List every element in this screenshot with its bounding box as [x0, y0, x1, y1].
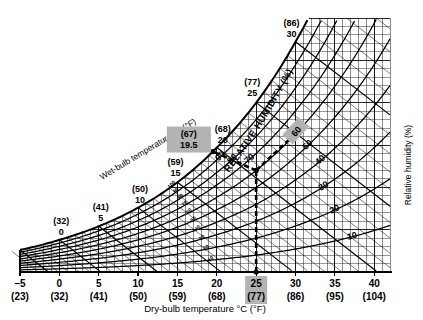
- x-tick-c-9: 40: [369, 278, 381, 289]
- x-tick-c-2: 5: [96, 278, 102, 289]
- x-tick-f-5: (68): [208, 291, 226, 302]
- wet-bulb-label-f-5: (77): [244, 77, 260, 87]
- wet-bulb-label-f-6: (86): [284, 18, 300, 28]
- wet-bulb-label-c-0: 0: [59, 227, 64, 237]
- wet-bulb-label-c-1: 5: [98, 213, 103, 223]
- x-tick-f-2: (41): [90, 291, 108, 302]
- x-tick-f-0: (23): [11, 291, 29, 302]
- wet-bulb-label-f-2: (50): [132, 184, 148, 194]
- wet-bulb-label-c-6: 30: [287, 29, 297, 39]
- rh-curve-label-50: 50: [300, 138, 314, 152]
- state-point-marker: [254, 168, 259, 173]
- x-tick-f-3: (50): [129, 291, 147, 302]
- x-tick-c-5: 20: [211, 278, 223, 289]
- wet-bulb-label-c-4: 20: [218, 135, 228, 145]
- x-tick-f-4: (59): [169, 291, 187, 302]
- wet-bulb-highlight-f: (67): [181, 129, 197, 139]
- wet-bulb-highlight-c: 19.5: [180, 140, 198, 150]
- right-axis-title: Relative humidity (%): [403, 125, 413, 205]
- x-tick-c-4: 15: [172, 278, 184, 289]
- wet-bulb-label-f-3: (59): [167, 157, 183, 167]
- wet-bulb-label-c-3: 15: [170, 168, 180, 178]
- wet-bulb-label-c-2: 10: [135, 195, 145, 205]
- x-tick-c-6: 25: [251, 278, 263, 289]
- x-tick-c-0: –5: [14, 278, 26, 289]
- x-tick-f-9: (104): [363, 291, 386, 302]
- x-tick-f-8: (95): [326, 291, 344, 302]
- x-tick-f-7: (86): [287, 291, 305, 302]
- x-tick-c-7: 30: [290, 278, 302, 289]
- x-tick-f-6: (77): [247, 291, 265, 302]
- wet-bulb-label-f-0: (32): [53, 216, 69, 226]
- rh-small-label-70: 70: [180, 199, 188, 207]
- psychrometric-chart-figure: –5(23)0(32)5(41)10(50)15(59)20(68)25(77)…: [0, 0, 423, 320]
- wet-bulb-label-c-5: 25: [247, 88, 257, 98]
- wet-bulb-label-f-4: (68): [215, 124, 231, 134]
- x-tick-c-3: 10: [133, 278, 145, 289]
- x-tick-c-8: 35: [329, 278, 341, 289]
- chart-canvas: –5(23)0(32)5(41)10(50)15(59)20(68)25(77)…: [0, 0, 423, 320]
- x-tick-f-1: (32): [50, 291, 68, 302]
- x-axis-title: Dry-bulb temperature °C (°F): [144, 303, 266, 314]
- wet-bulb-label-f-1: (41): [93, 202, 109, 212]
- x-tick-c-1: 0: [57, 278, 63, 289]
- rh-curve-label-10: 10: [346, 230, 358, 242]
- dry-bulb-point-marker: [254, 269, 259, 274]
